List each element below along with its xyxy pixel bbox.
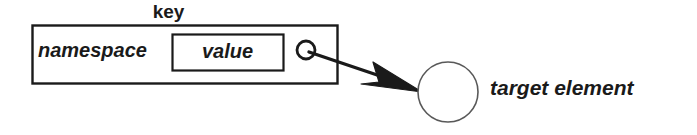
namespace-label: namespace: [38, 40, 147, 60]
arrowhead-icon: [361, 62, 422, 92]
target-element-label: target element: [490, 77, 634, 98]
target-element-circle: [418, 62, 478, 122]
value-label: value: [172, 41, 283, 61]
anchor-circle-icon: [297, 41, 315, 59]
diagram-canvas: key namespace value target element: [0, 0, 697, 135]
key-title-label: key: [0, 2, 337, 21]
